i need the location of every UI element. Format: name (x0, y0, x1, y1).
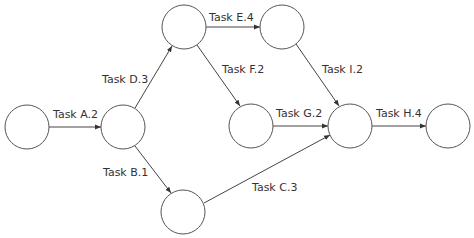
node-2 (101, 105, 145, 149)
node-6 (328, 104, 372, 148)
node-5 (229, 104, 273, 148)
label-task-i: Task I.2 (321, 63, 363, 76)
label-task-e: Task E.4 (208, 11, 254, 24)
label-task-c: Task C.3 (251, 181, 297, 194)
node-4 (260, 5, 304, 49)
node-3 (162, 5, 206, 49)
label-task-b: Task B.1 (102, 166, 148, 179)
node-7 (426, 104, 470, 148)
network-diagram: Task A.2 Task D.3 Task B.1 Task E.4 Task… (0, 0, 474, 238)
label-task-f: Task F.2 (221, 63, 264, 76)
label-task-h: Task H.4 (375, 107, 422, 120)
label-task-a: Task A.2 (52, 108, 98, 121)
node-8 (161, 190, 205, 234)
label-task-d: Task D.3 (101, 73, 148, 86)
label-task-g: Task G.2 (275, 107, 322, 120)
node-1 (5, 105, 49, 149)
